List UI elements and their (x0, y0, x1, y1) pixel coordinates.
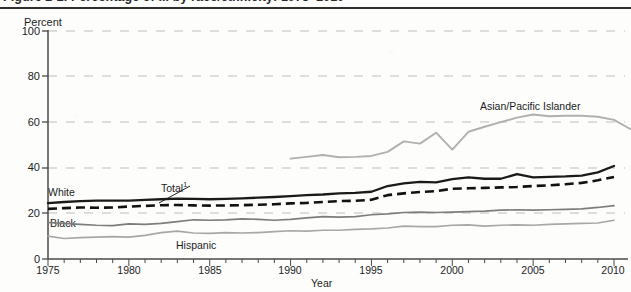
figure-root: Figure 2-2. Percentage of ... by race/et… (0, 0, 631, 292)
series-white (48, 166, 614, 203)
x-axis-minor-ticks (48, 259, 614, 266)
chart-svg-canvas (0, 0, 631, 292)
series-black (48, 206, 614, 226)
series-asian-pacific-islander (291, 114, 631, 158)
total-label-leader-line (159, 186, 190, 203)
series-line-white (48, 166, 614, 203)
series-line-asian (291, 114, 631, 158)
series-hispanic (48, 220, 614, 238)
chart-plot-area: Percent Year 0 20 40 60 80 100 1975 1980… (0, 0, 631, 292)
series-line-hispanic (48, 220, 614, 238)
series-line-black (48, 206, 614, 226)
y-axis-ticks (42, 31, 48, 259)
